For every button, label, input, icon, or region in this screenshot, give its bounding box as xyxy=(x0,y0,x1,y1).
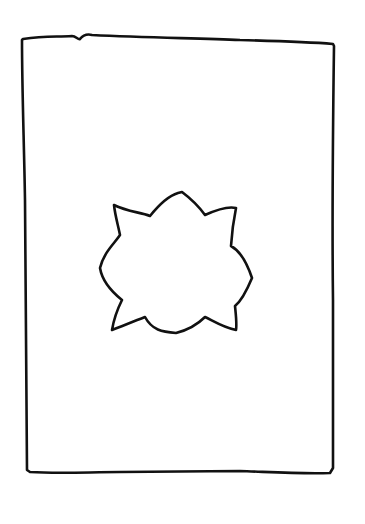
sketch-canvas xyxy=(0,0,365,524)
star-shape xyxy=(100,192,252,333)
rectangle-frame xyxy=(22,34,334,473)
